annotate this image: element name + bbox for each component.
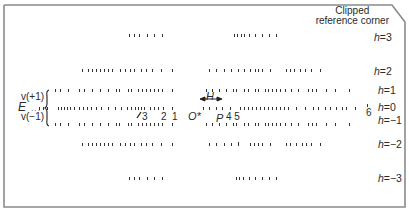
row-label-h-1: h=−1 [378,115,402,126]
marker-4-5: 4 5 [226,112,240,122]
row-h2 [82,69,321,72]
row-h1 [55,89,350,92]
h-span-label: H [206,91,214,102]
slash-mark [137,112,141,118]
p-marker: P [216,113,223,124]
marker-2: 2 [161,112,167,122]
row-label-h-2: h=−2 [378,139,402,150]
row-label-text: =2 [380,65,392,77]
marker-3: 3 [142,112,148,122]
row-label-text: =1 [384,84,396,96]
clipped-corner-label: Clipped reference corner [316,6,389,26]
marker-6: 6 [366,108,372,118]
row-label-h-3: h=−3 [378,173,402,184]
row-label-h2: h=2 [374,66,392,77]
row-label-text: =−1 [384,114,402,126]
row-h0 [39,104,368,110]
row-h3 [129,34,277,37]
origin-marker: O* [188,111,201,122]
row-h-1 [55,123,350,126]
row-label-h3: h=3 [374,32,392,43]
e-dots: ··· [31,107,41,114]
corner-label-line2: reference corner [316,16,389,26]
row-h-2 [82,142,321,146]
card-outline [0,0,409,211]
row-label-text: =0 [384,101,396,113]
row-label-text: =−2 [384,138,402,150]
row-label-text: =3 [380,31,392,43]
dot-rows [39,34,368,180]
marker-1: 1 [172,112,178,122]
row-label-h1: h=1 [378,85,396,96]
row-label-h0: h=0 [378,102,396,113]
row-label-text: =−3 [384,172,402,184]
row-h-3 [129,177,277,180]
